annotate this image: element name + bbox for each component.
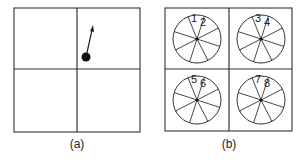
sector-number-label: 5: [191, 73, 197, 85]
sector-number-label: 6: [200, 77, 206, 89]
position-dot: [82, 53, 91, 62]
sector-spoke: [174, 32, 197, 39]
wheel-hub: [259, 37, 262, 40]
sector-wheel: 34: [237, 12, 285, 63]
panel-b: 12345678 (b): [165, 8, 292, 151]
sector-spoke: [238, 32, 261, 39]
sector-wheel: 56: [173, 73, 221, 124]
panel-a-caption: (a): [70, 137, 85, 151]
sector-number-label: 3: [255, 12, 261, 24]
sector-number-label: 1: [191, 12, 197, 24]
sector-number-label: 4: [264, 16, 270, 28]
panel-a: (a): [14, 8, 140, 151]
sector-wheel: 12: [173, 12, 221, 63]
sector-number-label: 8: [264, 77, 270, 89]
wheel-hub: [195, 37, 198, 40]
wheel-hub: [195, 98, 198, 101]
sector-spoke: [174, 93, 197, 100]
wheel-hub: [259, 98, 262, 101]
sector-number-label: 7: [255, 73, 261, 85]
sector-spoke: [238, 93, 261, 100]
sector-number-label: 2: [200, 16, 206, 28]
arrowhead-icon: [90, 25, 94, 32]
panel-b-caption: (b): [222, 137, 237, 151]
sector-wheel: 78: [237, 73, 285, 124]
figure: (a) 12345678 (b): [0, 0, 303, 160]
